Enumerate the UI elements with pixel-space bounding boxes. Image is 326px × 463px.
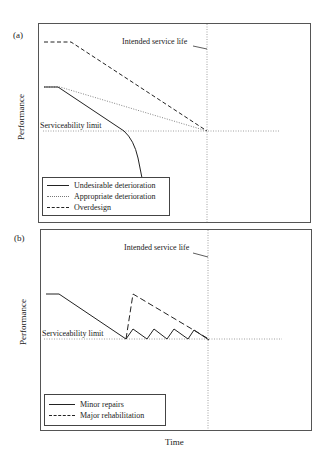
x-axis-label: Time xyxy=(165,437,184,447)
legend-item-overdesign: Overdesign xyxy=(47,203,111,212)
panel-a-intended-service-life-label: Intended service life xyxy=(122,38,187,46)
panel-a-tag: (a) xyxy=(13,30,23,40)
legend-item-undesirable: Undesirable deterioration xyxy=(47,181,156,190)
legend-item-minor-repairs: Minor repairs xyxy=(49,400,124,409)
legend-label: Undesirable deterioration xyxy=(74,181,156,190)
undesirable-deterioration-curve xyxy=(44,87,142,178)
dotted-line-swatch xyxy=(47,196,69,197)
panel-b-legend: Minor repairs Major rehabilitation xyxy=(44,394,166,426)
overdesign-curve xyxy=(44,42,207,131)
panel-b-service-life-leader xyxy=(193,253,208,257)
panel-b-serviceability-limit-label: Serviceability limit xyxy=(42,330,104,338)
panel-b-intended-service-life-label: Intended service life xyxy=(124,244,189,252)
legend-item-major-rehabilitation: Major rehabilitation xyxy=(49,411,144,420)
panel-a-service-life-leader xyxy=(193,46,207,49)
panel-a-y-axis-label: Performance xyxy=(16,87,26,147)
panel-b-tag: (b) xyxy=(14,233,25,243)
panel-a-serviceability-limit-label: Serviceability limit xyxy=(40,122,102,130)
solid-line-swatch xyxy=(49,404,75,405)
legend-label: Minor repairs xyxy=(80,400,124,409)
dashed-line-swatch xyxy=(49,415,75,416)
legend-label: Appropriate deterioration xyxy=(74,192,156,201)
panel-a-legend: Undesirable deterioration Appropriate de… xyxy=(42,177,170,216)
dashed-line-swatch xyxy=(47,207,69,208)
solid-line-swatch xyxy=(47,185,69,186)
legend-label: Overdesign xyxy=(74,203,111,212)
legend-label: Major rehabilitation xyxy=(80,411,144,420)
legend-item-appropriate: Appropriate deterioration xyxy=(47,192,156,201)
panel-b-y-axis-label: Performance xyxy=(18,292,28,352)
